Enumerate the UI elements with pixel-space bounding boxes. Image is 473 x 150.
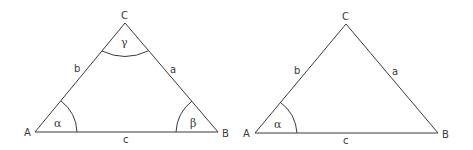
vertex-b-label: B <box>222 128 229 139</box>
vertex-a-label-right: A <box>243 128 250 139</box>
side-c-label-right: c <box>343 135 349 146</box>
triangle-right-outline <box>255 24 438 133</box>
angle-alpha-arc-left <box>61 101 77 132</box>
angle-gamma-label: γ <box>121 36 128 49</box>
vertex-c-label: C <box>121 10 128 21</box>
side-b-label-right: b <box>294 65 300 76</box>
vertex-a-label: A <box>24 127 31 138</box>
angle-alpha-arc-right <box>280 102 297 133</box>
triangle-right: A B C b a c α <box>243 11 449 146</box>
angle-beta-label: β <box>190 117 196 130</box>
angle-gamma-arc <box>102 51 148 57</box>
angle-alpha-label-right: α <box>274 118 282 131</box>
side-c-label: c <box>123 134 129 145</box>
vertex-c-label-right: C <box>342 11 349 22</box>
angle-alpha-label-left: α <box>54 117 62 130</box>
side-b-label: b <box>74 63 80 74</box>
diagram-canvas: A B C b a c γ α β A B C b a c α <box>0 0 473 150</box>
side-a-label-right: a <box>392 66 398 77</box>
triangle-left: A B C b a c γ α β <box>24 10 229 145</box>
vertex-b-label-right: B <box>442 129 449 140</box>
side-a-label: a <box>170 64 176 75</box>
